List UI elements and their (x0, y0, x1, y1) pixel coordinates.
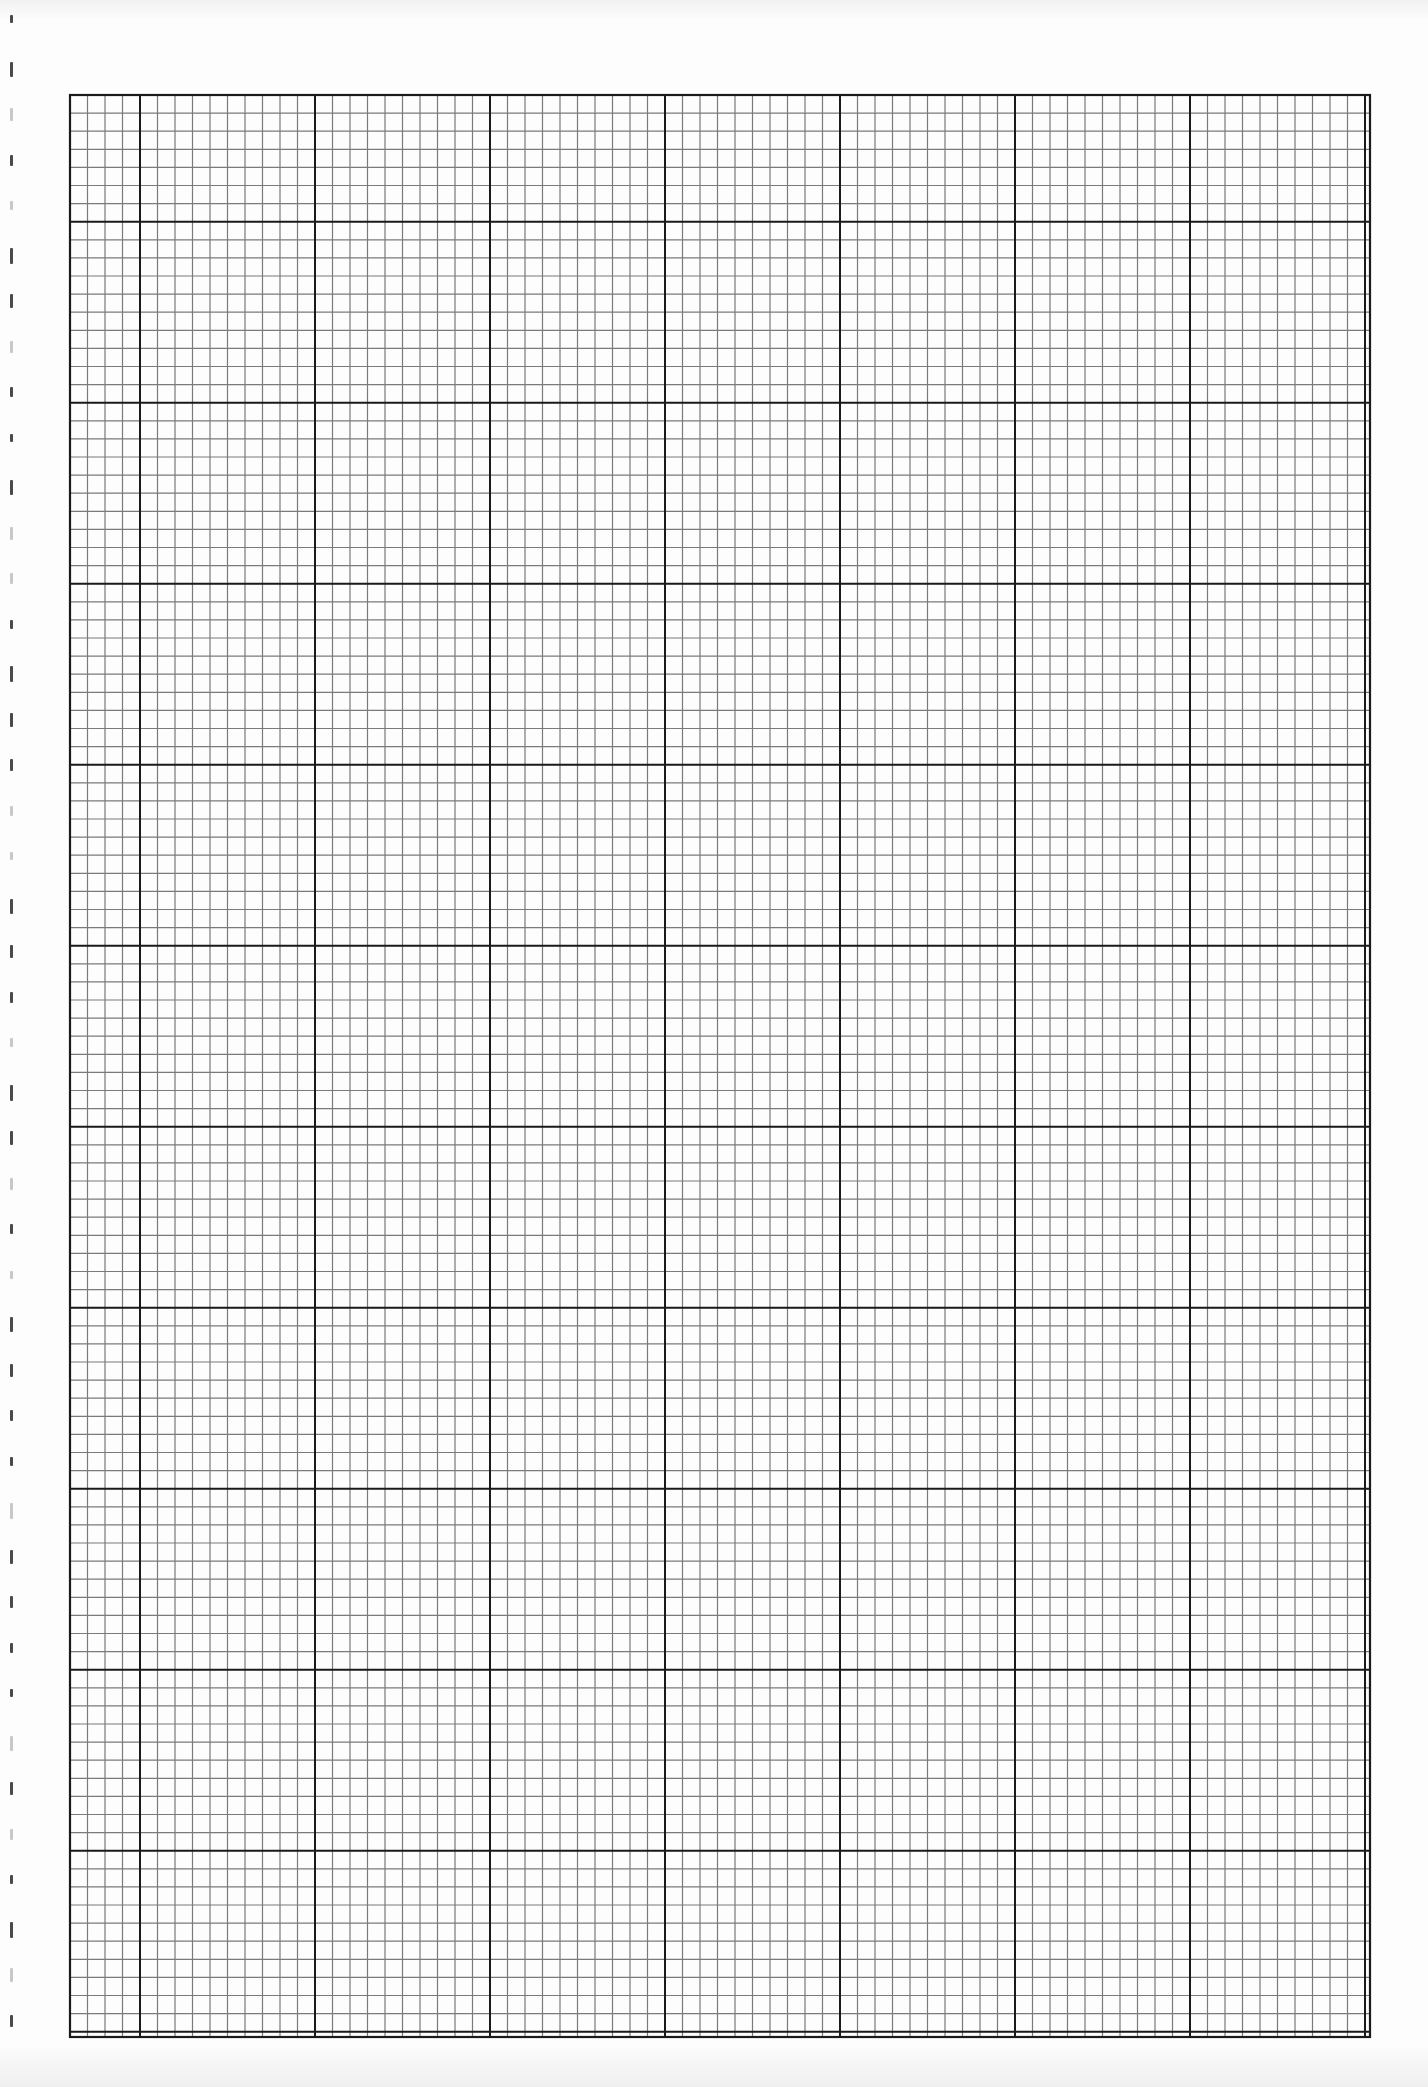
binding-mark (10, 15, 13, 23)
binding-mark (10, 1038, 13, 1047)
binding-mark (10, 2015, 13, 2027)
binding-mark (10, 1782, 13, 1795)
binding-mark (10, 1550, 13, 1564)
scan-bottom-edge (0, 2047, 1428, 2087)
binding-mark (10, 1364, 13, 1377)
binding-mark (10, 155, 13, 166)
binding-mark (10, 806, 13, 816)
binding-mark (10, 294, 13, 308)
binding-mark (10, 899, 13, 914)
grid-border (70, 95, 1370, 2037)
major-grid-lines (70, 95, 1370, 2037)
minor-grid-lines (70, 95, 1370, 2037)
binding-mark (10, 62, 13, 77)
binding-mark (10, 480, 13, 495)
binding-mark (10, 666, 13, 682)
binding-mark (10, 1503, 13, 1519)
binding-mark (10, 1457, 13, 1466)
binding-mark (10, 1271, 13, 1279)
binding-mark (10, 1829, 13, 1840)
binding-mark (10, 387, 13, 397)
binding-mark (10, 852, 13, 860)
binding-mark (10, 1317, 13, 1332)
binding-mark (10, 620, 13, 629)
binding-mark (10, 759, 13, 771)
binding-mark (10, 1178, 13, 1190)
binding-mark (10, 1643, 13, 1653)
binding-mark (10, 1736, 13, 1751)
binding-mark (10, 1410, 13, 1421)
binding-mark (10, 945, 13, 958)
binding-mark (10, 341, 13, 353)
binding-mark (10, 1224, 13, 1234)
binding-mark (10, 1131, 13, 1145)
binding-mark (10, 713, 13, 727)
binding-mark (10, 992, 13, 1003)
binding-mark (10, 1689, 13, 1697)
binding-mark (10, 573, 13, 584)
graph-paper-grid (0, 0, 1428, 2087)
binding-mark (10, 1596, 13, 1608)
binding-mark (10, 527, 13, 540)
binding-mark (10, 434, 13, 442)
binding-mark (10, 108, 13, 121)
binding-mark (10, 1922, 13, 1938)
binding-mark (10, 248, 13, 264)
binding-mark (10, 201, 13, 210)
binding-mark (10, 1875, 13, 1884)
binding-mark (10, 1085, 13, 1101)
binding-mark (10, 1968, 13, 1982)
